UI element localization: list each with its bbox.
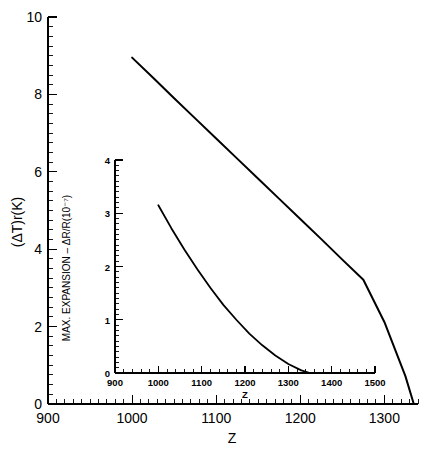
y-tick-label: 6: [34, 164, 42, 180]
inset-x-tick-label: 1000: [148, 377, 169, 388]
inset-x-ticks: [115, 366, 375, 373]
inset-y-tick-label: 3: [105, 208, 110, 219]
inset-x-tick-label: 900: [107, 377, 123, 388]
inset-y-axis: 01234: [105, 155, 123, 379]
inset-x-axis: 900100011001200130014001500: [107, 366, 386, 388]
x-tick-label: 1100: [201, 410, 231, 426]
figure-svg: 0246810 9001000110012001300 Z (ΔT)r(K) 0…: [0, 0, 444, 455]
main-x-tick-labels: 9001000110012001300: [36, 410, 400, 426]
inset-plot: 01234 900100011001200130014001500 Z MAX.…: [61, 155, 386, 400]
figure-container: 0246810 9001000110012001300 Z (ΔT)r(K) 0…: [0, 0, 444, 455]
main-x-axis-title: Z: [228, 430, 237, 446]
inset-y-tick-label: 2: [105, 262, 110, 273]
inset-y-ticks: [115, 160, 123, 373]
main-y-ticks: [48, 17, 57, 404]
y-tick-label: 8: [34, 86, 42, 102]
main-x-ticks: [48, 395, 418, 404]
inset-x-tick-label: 1200: [234, 377, 255, 388]
inset-x-tick-label: 1100: [191, 377, 212, 388]
inset-y-tick-label: 4: [105, 155, 111, 166]
main-y-axis: 0246810: [26, 9, 57, 412]
y-tick-label: 4: [34, 241, 42, 257]
y-tick-label: 10: [26, 9, 42, 25]
main-data-curve: [132, 58, 414, 404]
x-tick-label: 1300: [369, 410, 400, 426]
inset-y-axis-title: MAX. EXPANSION – ΔR/R(10⁻⁷): [61, 195, 72, 341]
x-tick-label: 1000: [117, 410, 148, 426]
main-y-axis-title: (ΔT)r(K): [9, 197, 25, 248]
y-tick-label: 2: [34, 319, 42, 335]
inset-x-tick-labels: 900100011001200130014001500: [107, 377, 386, 388]
x-tick-label: 900: [36, 410, 60, 426]
main-x-axis: 9001000110012001300: [36, 395, 418, 426]
inset-x-axis-title: Z: [242, 389, 248, 400]
inset-x-tick-label: 1300: [278, 377, 299, 388]
inset-y-tick-labels: 01234: [105, 155, 111, 379]
inset-x-tick-label: 1500: [364, 377, 385, 388]
main-y-tick-labels: 0246810: [26, 9, 42, 412]
inset-x-tick-label: 1400: [321, 377, 342, 388]
x-tick-label: 1200: [285, 410, 316, 426]
inset-y-tick-label: 1: [105, 315, 111, 326]
inset-data-curve: [158, 205, 310, 373]
